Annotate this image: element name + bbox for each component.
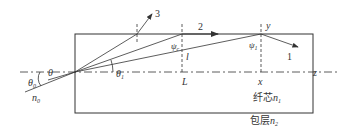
x-label: x [257, 76, 263, 87]
fiber-diagram: 3 2 y 1 ψc ψ1 l L x z θ0 θ θ1 n0 纤芯n1 包层… [0, 0, 347, 136]
core-label: 纤芯n1 [253, 91, 281, 104]
y-label: y [265, 20, 271, 31]
ray-l [75, 34, 261, 72]
L-label: L [181, 76, 188, 87]
theta-1-arc [111, 60, 113, 72]
theta-0-label: θ0 [28, 77, 36, 89]
ray-1-label: 1 [287, 51, 292, 62]
ray-2-label: 2 [198, 21, 203, 32]
psi-1-label: ψ1 [249, 40, 258, 51]
ray-3-label: 3 [155, 8, 160, 19]
l-label: l [186, 51, 189, 62]
psi-c-label: ψc [171, 41, 180, 52]
theta-0-arc [38, 72, 41, 86]
z-label: z [312, 67, 317, 78]
n-0-label: n0 [32, 92, 40, 104]
ray-2-inside [75, 34, 182, 72]
ray-1-reflected [261, 34, 298, 47]
theta-label: θ [48, 67, 53, 78]
ray-3-exit [137, 14, 152, 34]
theta-1-label: θ1 [116, 68, 124, 80]
cladding-label: 包层n2 [250, 114, 278, 127]
